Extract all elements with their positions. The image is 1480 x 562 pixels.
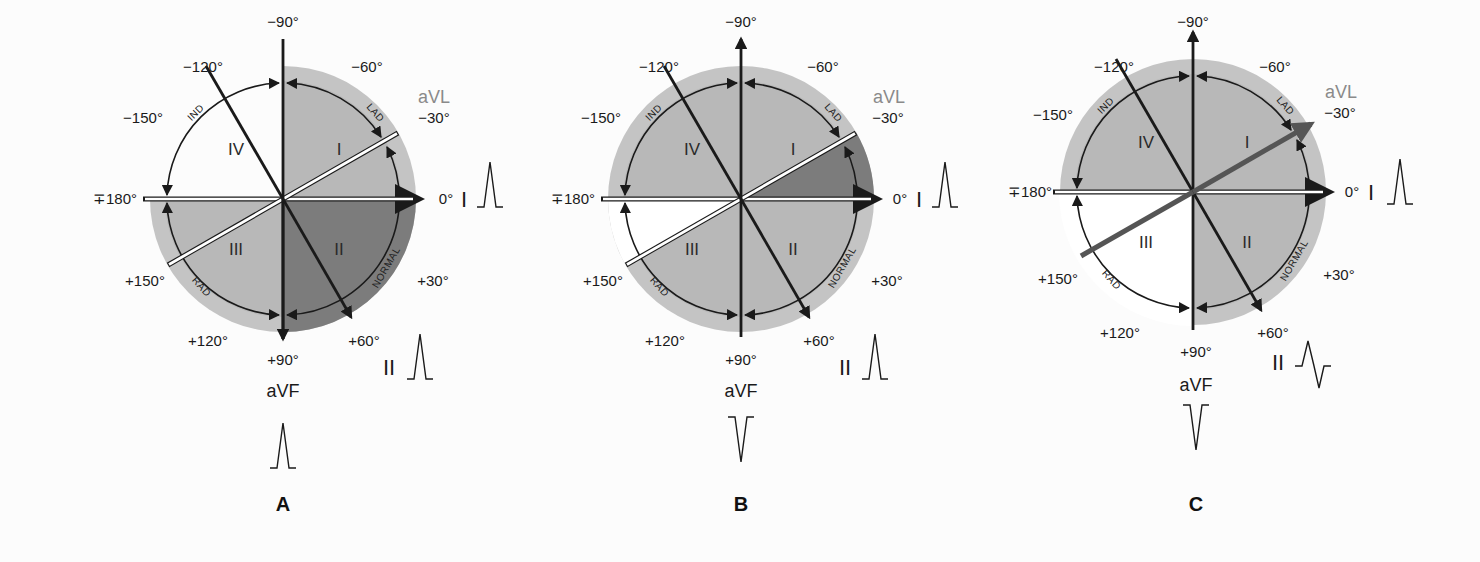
deg-p30: +30° bbox=[871, 272, 902, 289]
deg-zero: 0° bbox=[1345, 183, 1359, 200]
lead-label-i: I bbox=[916, 187, 922, 212]
waveform-lead-i bbox=[932, 162, 958, 207]
deg-zero: 0° bbox=[439, 190, 453, 207]
quadrant-label-iii: III bbox=[229, 240, 243, 259]
deg-m120: −120° bbox=[183, 58, 223, 75]
arc-label-ind: IND bbox=[185, 102, 206, 123]
deg-m60: −60° bbox=[351, 58, 382, 75]
quadrant-label-i: I bbox=[1245, 133, 1250, 152]
deg-p150: +150° bbox=[583, 272, 623, 289]
waveform-lead-ii bbox=[862, 334, 888, 379]
quadrant-label-iii: III bbox=[685, 240, 699, 259]
lead-label-ii: II bbox=[383, 355, 395, 380]
deg-zero: 0° bbox=[893, 190, 907, 207]
deg-m150: −150° bbox=[1033, 106, 1073, 123]
lead-label-avl: aVL bbox=[1325, 82, 1357, 102]
deg-p60: +60° bbox=[348, 332, 379, 349]
lead-label-i: I bbox=[1368, 180, 1374, 205]
deg-m150: −150° bbox=[123, 109, 163, 126]
panel-b: I II III IV IND LAD NORMAL RAD −90° −60°… bbox=[551, 13, 958, 515]
quadrant-label-iv: IV bbox=[228, 140, 245, 159]
panel-c: I II III IV IND LAD NORMAL RAD −90° −60°… bbox=[1008, 13, 1413, 515]
deg-pm180: ∓180° bbox=[1008, 183, 1052, 200]
lead-label-avf: aVF bbox=[724, 381, 757, 401]
deg-p90: +90° bbox=[725, 351, 756, 368]
quadrant-label-ii: II bbox=[1242, 233, 1251, 252]
waveform-lead-ii-biphasic bbox=[1295, 341, 1331, 388]
axis-lead-iii bbox=[206, 66, 283, 199]
lead-label-i: I bbox=[461, 187, 467, 212]
lead-label-ii: II bbox=[1272, 350, 1284, 375]
lead-label-avl: aVL bbox=[873, 87, 905, 107]
deg-p150: +150° bbox=[1038, 270, 1078, 287]
panel-label-c: C bbox=[1189, 493, 1203, 515]
hexaxial-figure: I II III IV IND LAD NORMAL RAD −90° −60°… bbox=[0, 0, 1480, 562]
waveform-avf-negative bbox=[728, 417, 754, 462]
deg-m120: −120° bbox=[1094, 58, 1134, 75]
waveform-lead-i bbox=[477, 162, 503, 207]
deg-p60: +60° bbox=[1257, 324, 1288, 341]
quadrant-label-iv: IV bbox=[684, 140, 701, 159]
deg-p90: +90° bbox=[1180, 343, 1211, 360]
deg-pm180: ∓180° bbox=[551, 190, 595, 207]
deg-p120: +120° bbox=[188, 332, 228, 349]
deg-pm180: ∓180° bbox=[93, 190, 137, 207]
waveform-avf-negative bbox=[1183, 405, 1209, 450]
deg-p120: +120° bbox=[645, 332, 685, 349]
quadrant-label-ii: II bbox=[334, 240, 343, 259]
quadrant-label-i: I bbox=[337, 140, 342, 159]
lead-label-avf: aVF bbox=[1179, 375, 1212, 395]
deg-m60: −60° bbox=[1259, 58, 1290, 75]
deg-m30: −30° bbox=[1324, 104, 1355, 121]
deg-m150: −150° bbox=[581, 109, 621, 126]
deg-m30: −30° bbox=[872, 109, 903, 126]
panel-a: I II III IV IND LAD NORMAL RAD −90° −60°… bbox=[93, 13, 503, 515]
quadrant-label-i: I bbox=[791, 140, 796, 159]
panel-label-b: B bbox=[734, 493, 748, 515]
deg-p90: +90° bbox=[267, 351, 298, 368]
quadrant-label-iv: IV bbox=[1138, 133, 1155, 152]
waveform-avf bbox=[270, 423, 296, 468]
deg-m120: −120° bbox=[639, 58, 679, 75]
arc-ind bbox=[167, 83, 279, 195]
deg-p60: +60° bbox=[803, 332, 834, 349]
deg-m90: −90° bbox=[725, 13, 756, 30]
deg-m60: −60° bbox=[807, 58, 838, 75]
deg-m90: −90° bbox=[1177, 13, 1208, 30]
panel-label-a: A bbox=[276, 493, 290, 515]
deg-m30: −30° bbox=[418, 109, 449, 126]
deg-p30: +30° bbox=[417, 272, 448, 289]
waveform-lead-i bbox=[1387, 159, 1413, 204]
waveform-lead-ii bbox=[407, 334, 433, 379]
deg-m90: −90° bbox=[267, 13, 298, 30]
deg-p150: +150° bbox=[125, 272, 165, 289]
deg-p30: +30° bbox=[1323, 266, 1354, 283]
lead-label-avl: aVL bbox=[418, 87, 450, 107]
lead-label-avf: aVF bbox=[266, 381, 299, 401]
lead-label-ii: II bbox=[839, 355, 851, 380]
deg-p120: +120° bbox=[1100, 324, 1140, 341]
quadrant-label-ii: II bbox=[788, 240, 797, 259]
quadrant-label-iii: III bbox=[1139, 233, 1153, 252]
